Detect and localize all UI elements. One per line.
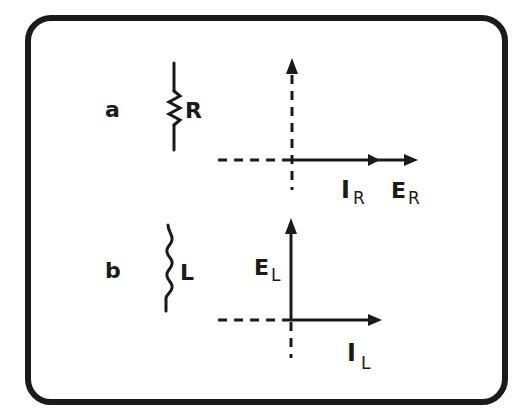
panel-a-label: a (105, 97, 120, 122)
panel-b-label: b (105, 258, 121, 283)
resistor-label: R (185, 98, 202, 123)
panel-b: b L EL IL (105, 218, 382, 373)
resistor-icon (169, 63, 180, 150)
panel-a: a R IR ER (105, 58, 420, 208)
inductor-icon (166, 225, 172, 311)
inductor-label: L (180, 260, 194, 285)
voltage-arrowhead-icon (404, 154, 418, 166)
phasor-diagram: a R IR ER b L (0, 0, 519, 412)
phasor-label-el: EL (254, 255, 281, 285)
current-arrowhead-icon (368, 154, 380, 166)
phasor-label-ir: IR (341, 176, 365, 208)
panel-a-axes (218, 75, 410, 190)
phasor-label-er: ER (391, 178, 420, 208)
y-axis-arrowhead-icon (286, 58, 298, 74)
current-arrowhead-icon (368, 314, 382, 326)
phasor-label-il: IL (347, 339, 371, 373)
voltage-arrowhead-icon (285, 218, 297, 234)
